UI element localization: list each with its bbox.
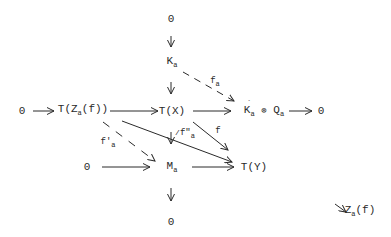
footnote-post: (f) xyxy=(356,204,376,216)
node-row2-left-zero: 0 xyxy=(84,161,91,173)
label-f-a: fa xyxy=(210,76,220,89)
node-T-X: T(X) xyxy=(159,105,185,117)
node-M-a: Ma xyxy=(167,160,178,176)
node-T-Y: T(Y) xyxy=(241,161,267,173)
node-T-Za-f: T(Za(f)) xyxy=(58,103,108,119)
Q-sub: a xyxy=(280,110,284,118)
Kprime-accent: ´ xyxy=(247,97,252,109)
K-a-base: K xyxy=(167,55,174,67)
footnote-pre: Z xyxy=(345,204,352,216)
node-row1-left-zero: 0 xyxy=(19,105,26,117)
f-prime-a-base: f' xyxy=(100,137,111,147)
tensor-op: ⊗ xyxy=(261,106,266,116)
T-Za-f-pre: T(Z xyxy=(58,103,78,115)
label-f-dprime-a: /f"a xyxy=(175,128,195,141)
arrow-Ka-to-KQ-dashed xyxy=(183,72,234,101)
f-prime-a-sub: a xyxy=(111,141,115,149)
K-a-sub: a xyxy=(173,61,177,69)
footnote-Za-f: Za(f) xyxy=(345,204,376,220)
T-Za-f-post: (f)) xyxy=(82,103,108,115)
M-a-sub: a xyxy=(173,166,177,174)
f-a-sub: a xyxy=(216,80,220,88)
Kprime-sub: a xyxy=(250,110,254,118)
node-row1-right-zero: 0 xyxy=(318,105,325,117)
node-K-a: Ka xyxy=(167,55,178,71)
M-a-base: M xyxy=(167,160,174,172)
node-top-zero: 0 xyxy=(168,13,175,25)
Kprime-base: K´ xyxy=(244,104,251,116)
f-dprime-a-base: f" xyxy=(180,128,191,138)
label-f-prime-a: f'a xyxy=(100,137,115,150)
node-bottom-zero: 0 xyxy=(168,216,175,228)
f-dprime-a-sub: a xyxy=(191,132,195,140)
node-Kprime-tensor-Q: K´a ⊗ Qa xyxy=(244,104,284,120)
arrow-TX-to-TY xyxy=(193,122,228,150)
label-f: f xyxy=(215,126,220,136)
